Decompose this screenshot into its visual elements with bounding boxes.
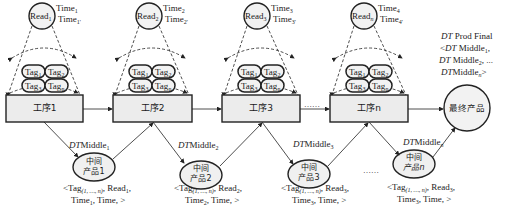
middle-n-record-line1: <Tag(1, …, n), Read3, — [387, 182, 455, 192]
tag-1: Tag1 — [132, 67, 148, 77]
process-ellipsis: …… — [304, 100, 320, 110]
middle-3-record-line1: <Tag(1, …, n), Read3, — [281, 183, 349, 193]
reader-3-label: Read3 — [245, 11, 267, 21]
middle-3-record-line2: Time3, Time, > — [292, 195, 346, 205]
tag-3: Tag3 — [241, 81, 257, 91]
tag-3: Tag3 — [132, 81, 148, 91]
middle-1-record-line1: <Tag(1, …, n), Read1, — [63, 183, 131, 193]
tag-3: Tag3 — [349, 81, 365, 91]
tag-n: Tagn — [155, 81, 171, 91]
tag-n: Tagn — [372, 81, 388, 91]
process-box-3: 工序3 — [222, 103, 300, 113]
tag-n: Tagn — [48, 81, 64, 91]
middle-1-line2: 产品1 — [73, 167, 115, 177]
reader-n-time-out: Time4' — [380, 14, 403, 24]
tag-1: Tag1 — [349, 67, 365, 77]
tag-2: Tag2 — [155, 67, 171, 77]
reader-1-time-in: Time1 — [56, 3, 78, 13]
middle-n-line2: 产品n — [393, 163, 435, 173]
tag-1: Tag1 — [25, 67, 41, 77]
middle-3-line1: 中间 — [288, 163, 330, 173]
tag-2: Tag2 — [264, 67, 280, 77]
middle-n-dt-label: DTMiddlen — [403, 137, 444, 147]
reader-3-time-in: Time3 — [271, 3, 293, 13]
reader-2-label: Read2 — [137, 11, 159, 21]
reader-2-time-out: Time2' — [165, 14, 188, 24]
middle-3-line2: 产品3 — [288, 173, 330, 183]
middle-1-dt-label: DTMiddle1 — [69, 140, 110, 150]
final-caption-line1: DT Prod Final — [441, 31, 493, 41]
middle-ellipsis: …… — [363, 166, 379, 176]
middle-1-record-line2: Time1, Time, > — [71, 195, 125, 205]
reader-2-time-in: Time2 — [163, 3, 185, 13]
process-box-2: 工序2 — [113, 103, 192, 113]
reader-3-time-out: Time3' — [273, 14, 296, 24]
final-caption-line2: <DT Middle1, — [440, 43, 490, 53]
final-caption-line4: DTMiddlen> — [441, 67, 487, 77]
middle-2-dt-label: DTMiddle2 — [178, 140, 219, 150]
middle-n-line1: 中间 — [393, 153, 435, 163]
final-product-label: 最终产品 — [444, 103, 490, 113]
middle-n-record-line2: Time3, Time, > — [397, 194, 451, 204]
reader-1-label: Read1 — [30, 11, 52, 21]
reader-n-time-in: Time4 — [378, 3, 400, 13]
tag-1: Tag1 — [241, 67, 257, 77]
middle-3-dt-label: DTMiddle3 — [293, 139, 334, 149]
tag-2: Tag2 — [48, 67, 64, 77]
middle-2-record-line1: <Tag(1, …, n), Read2, — [174, 183, 242, 193]
final-caption-line3: DT Middle2, ... — [439, 55, 493, 65]
middle-1-line1: 中间 — [73, 157, 115, 167]
reader-1-time-out: Time1' — [58, 14, 81, 24]
tag-3: Tag3 — [25, 81, 41, 91]
reader-n-label: Readn — [352, 11, 374, 21]
process-box-n: 工序n — [330, 103, 408, 113]
middle-2-line1: 中间 — [180, 164, 222, 174]
tag-n: Tagn — [264, 81, 280, 91]
middle-2-record-line2: Time2, Time, > — [185, 195, 239, 205]
process-box-1: 工序1 — [6, 103, 83, 113]
tag-2: Tag2 — [372, 67, 388, 77]
